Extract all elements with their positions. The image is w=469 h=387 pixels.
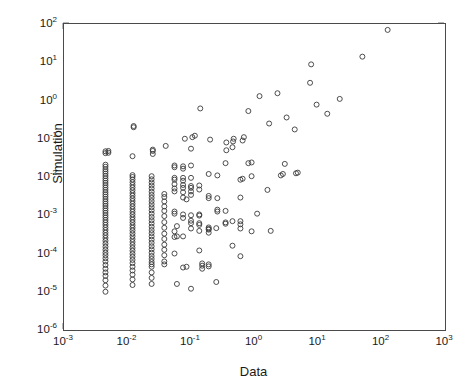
scatter-point: [189, 163, 194, 168]
x-tick-label: 10-1: [180, 335, 200, 347]
scatter-point: [197, 228, 202, 233]
scatter-point: [267, 121, 272, 126]
scatter-point: [325, 111, 330, 116]
scatter-point: [162, 253, 167, 258]
scatter-point: [224, 148, 229, 153]
scatter-point: [149, 281, 154, 286]
scatter-markers: [64, 24, 445, 330]
scatter-point: [162, 225, 167, 230]
scatter-point: [181, 212, 186, 217]
scatter-point: [163, 143, 168, 148]
scatter-point: [249, 160, 254, 165]
y-tick-label: 102: [40, 17, 57, 29]
y-tick-label: 101: [40, 55, 57, 67]
scatter-point: [230, 145, 235, 150]
scatter-point: [130, 277, 135, 282]
scatter-point: [275, 91, 280, 96]
scatter-point: [162, 236, 167, 241]
scatter-point: [162, 231, 167, 236]
scatter-point: [246, 109, 251, 114]
scatter-point: [149, 174, 154, 179]
scatter-point: [314, 102, 319, 107]
scatter-point: [189, 146, 194, 151]
scatter-point: [162, 220, 167, 225]
scatter-point: [224, 140, 229, 145]
scatter-point: [103, 283, 108, 288]
scatter-point: [238, 219, 243, 224]
scatter-point: [182, 136, 187, 141]
scatter-point: [308, 80, 313, 85]
y-tick-label: 10-6: [37, 323, 57, 335]
scatter-point: [230, 243, 235, 248]
scatter-point: [255, 211, 260, 216]
scatter-point: [149, 275, 154, 280]
scatter-point: [189, 226, 194, 231]
y-tick-label: 10-5: [37, 285, 57, 297]
scatter-point: [181, 234, 186, 239]
scatter-point: [162, 191, 167, 196]
scatter-point: [214, 226, 219, 231]
x-tick-label: 10-3: [53, 335, 73, 347]
scatter-point: [189, 286, 194, 291]
scatter-point: [208, 137, 213, 142]
figure-scatter-plot: 10-310-210-1100101102103 10-610-510-410-…: [0, 0, 469, 387]
scatter-point: [337, 96, 342, 101]
scatter-point: [385, 27, 390, 32]
x-tick-label: 103: [435, 335, 452, 347]
scatter-point: [174, 224, 179, 229]
scatter-point: [162, 214, 167, 219]
x-tick-label: 102: [372, 335, 389, 347]
scatter-point: [215, 196, 220, 201]
scatter-point: [223, 161, 228, 166]
scatter-point: [214, 279, 219, 284]
scatter-point: [309, 62, 314, 67]
scatter-point: [172, 229, 177, 234]
scatter-point: [257, 94, 262, 99]
x-tick-label: 101: [308, 335, 325, 347]
scatter-point: [130, 283, 135, 288]
x-tick-label: 10-2: [117, 335, 137, 347]
scatter-point: [206, 171, 211, 176]
scatter-point: [223, 208, 228, 213]
scatter-point: [181, 265, 186, 270]
scatter-point: [149, 270, 154, 275]
plot-area: [63, 23, 446, 331]
scatter-point: [360, 54, 365, 59]
scatter-point: [268, 228, 273, 233]
y-axis-label: Simulation: [50, 94, 65, 214]
scatter-point: [174, 281, 179, 286]
x-axis-label: Data: [63, 364, 444, 379]
scatter-point: [189, 175, 194, 180]
scatter-point: [240, 138, 245, 143]
scatter-point: [282, 161, 287, 166]
scatter-point: [198, 106, 203, 111]
scatter-point: [197, 248, 202, 253]
scatter-point: [230, 219, 235, 224]
scatter-point: [238, 195, 243, 200]
scatter-point: [103, 289, 108, 294]
scatter-point: [162, 242, 167, 247]
scatter-point: [189, 213, 194, 218]
x-tick-label: 100: [245, 335, 262, 347]
scatter-point: [249, 229, 254, 234]
y-tick-label: 10-4: [37, 247, 57, 259]
scatter-point: [241, 135, 246, 140]
scatter-point: [249, 174, 254, 179]
scatter-point: [130, 154, 135, 159]
scatter-point: [292, 127, 297, 132]
scatter-point: [265, 187, 270, 192]
scatter-point: [184, 264, 189, 269]
scatter-point: [215, 173, 220, 178]
scatter-point: [162, 247, 167, 252]
scatter-point: [284, 115, 289, 120]
scatter-point: [172, 251, 177, 256]
scatter-point: [238, 254, 243, 259]
